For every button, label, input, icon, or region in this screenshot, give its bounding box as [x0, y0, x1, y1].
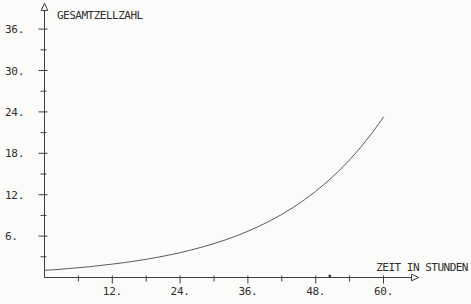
axis-dot-marker [328, 275, 331, 278]
x-tick-label: 24. [171, 285, 190, 298]
y-tick-label: 12. [5, 189, 24, 202]
y-tick-label: 24. [5, 106, 24, 119]
y-tick-label: 36. [5, 23, 24, 36]
x-tick-label: 60. [374, 285, 393, 298]
y-axis-arrow-icon [41, 3, 48, 10]
x-tick-label: 36. [238, 285, 257, 298]
x-tick-label: 48. [306, 285, 325, 298]
y-tick-label: 6. [5, 230, 18, 243]
x-tick-label: 12. [103, 285, 122, 298]
y-tick-label: 18. [5, 147, 24, 160]
y-tick-label: 30. [5, 65, 24, 78]
x-axis-arrow-icon [412, 274, 419, 281]
chart-plot-area: 12.24.36.48.60.6.12.18.24.30.36. [0, 0, 471, 304]
x-axis-title: ZEIT IN STUNDEN [376, 261, 468, 274]
y-axis-title: GESAMTZELLZAHL [57, 9, 143, 22]
growth-curve [45, 117, 384, 270]
chart-canvas: 12.24.36.48.60.6.12.18.24.30.36. GESAMTZ… [0, 0, 471, 304]
